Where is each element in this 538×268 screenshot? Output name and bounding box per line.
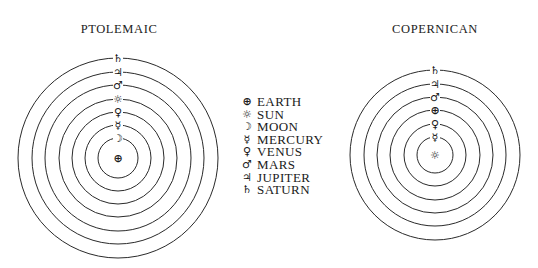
legend-item-saturn: ♄ SATURN <box>240 184 323 197</box>
ptolemaic-model: ☽☿♀☼♂♃♄⊕ <box>18 52 218 259</box>
mars-icon: ♂ <box>113 79 123 92</box>
saturn-icon: ♄ <box>240 184 254 197</box>
sun-icon: ☼ <box>113 93 123 106</box>
moon-icon: ☽ <box>240 121 254 134</box>
mercury-icon: ☿ <box>432 131 439 144</box>
saturn-icon: ♄ <box>113 52 123 65</box>
mars-icon: ♂ <box>240 159 254 172</box>
venus-icon: ♀ <box>114 106 122 119</box>
legend-label: SATURN <box>257 184 310 197</box>
moon-icon: ☽ <box>113 132 123 145</box>
jupiter-icon: ♃ <box>430 78 440 91</box>
mars-icon: ♂ <box>430 91 440 104</box>
sun-icon: ☼ <box>430 149 440 162</box>
saturn-icon: ♄ <box>430 64 440 77</box>
copernican-model: ☿♀⊕♂♃♄☼ <box>350 64 520 241</box>
earth-icon: ⊕ <box>430 104 439 117</box>
diagram-canvas: PTOLEMAIC COPERNICAN ☽☿♀☼♂♃♄⊕☿♀⊕♂♃♄☼ ⊕ E… <box>0 0 538 268</box>
legend: ⊕ EARTH ☼ SUN ☽ MOON ☿ MERCURY ♀ VENUS ♂… <box>240 96 323 197</box>
earth-icon: ⊕ <box>113 152 122 165</box>
venus-icon: ♀ <box>431 118 439 131</box>
mercury-icon: ☿ <box>115 119 122 132</box>
earth-icon: ⊕ <box>240 96 254 109</box>
jupiter-icon: ♃ <box>113 66 123 79</box>
